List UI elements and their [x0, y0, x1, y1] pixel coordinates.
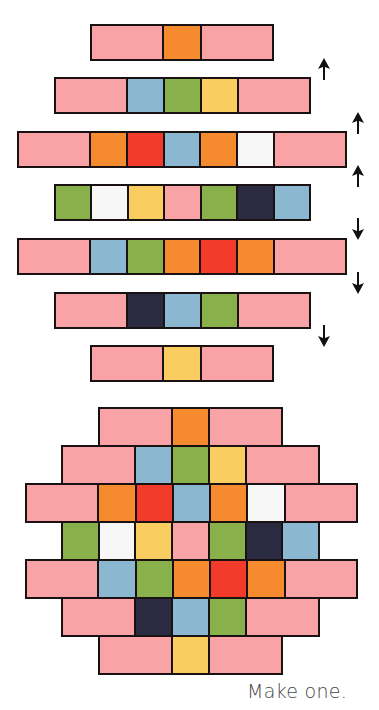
square-green: [63, 523, 100, 559]
square-pink: [27, 485, 99, 521]
square-blue: [174, 485, 211, 521]
square-red: [211, 561, 248, 597]
square-orange: [173, 409, 210, 445]
square-red: [137, 485, 174, 521]
square-pink: [63, 447, 136, 483]
assembled-row-4: [61, 521, 320, 561]
square-yellow: [136, 523, 173, 559]
square-pink: [100, 409, 173, 445]
assembled-block: [0, 0, 379, 710]
square-pink: [210, 409, 281, 445]
square-pink: [210, 637, 281, 673]
square-pink: [247, 599, 318, 635]
square-navy: [247, 523, 284, 559]
square-pink: [100, 637, 173, 673]
square-blue: [173, 599, 210, 635]
square-orange: [211, 485, 248, 521]
square-pink: [247, 447, 318, 483]
square-blue: [99, 561, 136, 597]
square-white: [248, 485, 285, 521]
assembled-row-2: [61, 445, 320, 485]
square-pink: [173, 523, 210, 559]
square-green: [173, 447, 210, 483]
square-pink: [63, 599, 136, 635]
square-orange: [99, 485, 136, 521]
square-blue: [136, 447, 173, 483]
assembled-row-6: [61, 597, 320, 637]
square-green: [210, 599, 247, 635]
assembled-row-5: [25, 559, 358, 599]
square-orange: [248, 561, 285, 597]
square-navy: [136, 599, 173, 635]
square-pink: [286, 561, 356, 597]
square-pink: [27, 561, 99, 597]
square-yellow: [173, 637, 210, 673]
square-pink: [286, 485, 356, 521]
square-yellow: [210, 447, 247, 483]
instruction-caption: Make one.: [247, 680, 347, 702]
square-orange: [174, 561, 211, 597]
assembled-row-7: [98, 635, 283, 675]
assembled-row-1: [98, 407, 283, 447]
square-green: [137, 561, 174, 597]
square-green: [210, 523, 247, 559]
square-white: [100, 523, 137, 559]
square-blue: [283, 523, 318, 559]
assembled-row-3: [25, 483, 358, 523]
